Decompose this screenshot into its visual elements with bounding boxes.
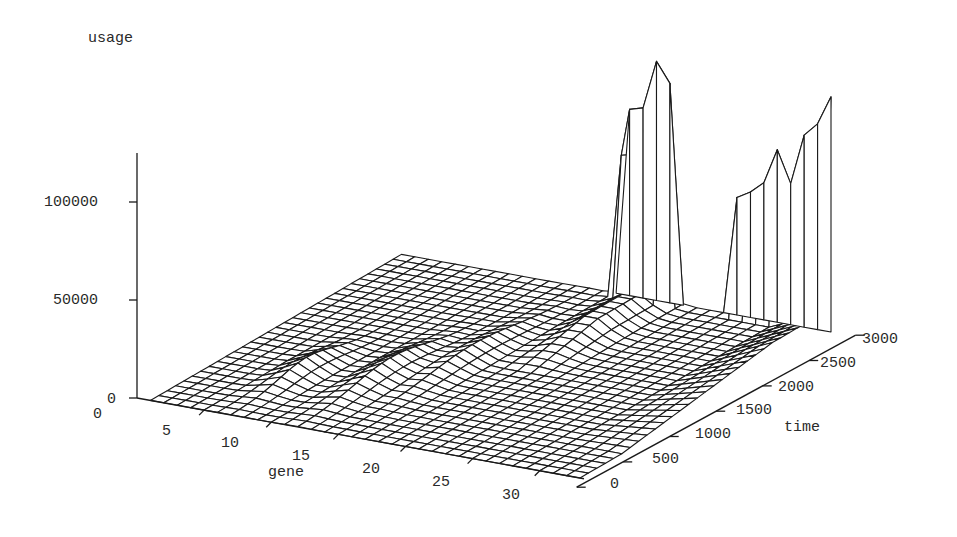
x-axis-title: gene bbox=[268, 465, 304, 480]
y-tick-label-2000: 2000 bbox=[778, 380, 814, 395]
x-tick-label-30: 30 bbox=[502, 488, 520, 503]
z-tick-label-50000: 50000 bbox=[53, 293, 98, 308]
surface-plot bbox=[0, 0, 957, 537]
y-tick-label-0: 0 bbox=[610, 477, 619, 492]
y-axis-title: time bbox=[784, 420, 820, 435]
x-tick-label-10: 10 bbox=[221, 436, 239, 451]
x-tick-label-15: 15 bbox=[292, 449, 310, 464]
x-tick-label-0: 0 bbox=[93, 407, 102, 422]
y-tick-label-3000: 3000 bbox=[862, 332, 898, 347]
x-tick-label-20: 20 bbox=[362, 462, 380, 477]
x-tick-label-5: 5 bbox=[162, 424, 171, 439]
y-tick-label-2500: 2500 bbox=[820, 356, 856, 371]
z-tick-label-100000: 100000 bbox=[44, 195, 98, 210]
y-tick-label-1500: 1500 bbox=[736, 403, 772, 418]
y-tick-label-1000: 1000 bbox=[695, 427, 731, 442]
z-tick-label-0: 0 bbox=[107, 392, 116, 407]
z-axis-title: usage bbox=[88, 31, 133, 46]
x-tick-label-25: 25 bbox=[432, 475, 450, 490]
y-tick-label-500: 500 bbox=[652, 452, 679, 467]
